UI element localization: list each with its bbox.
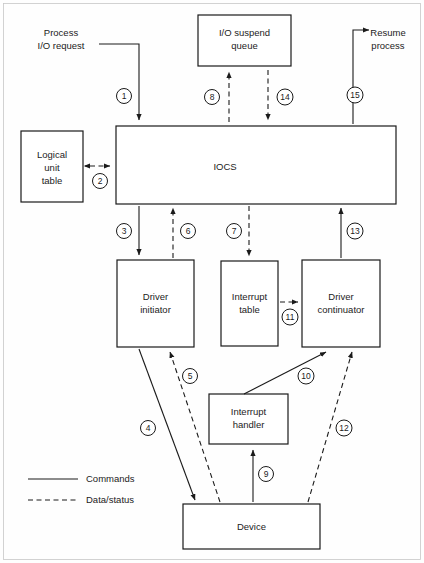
label-resume-process: Resume process: [370, 27, 405, 51]
svg-text:9: 9: [264, 469, 269, 479]
box-interrupt-table-label-2: table: [239, 304, 260, 315]
label-resume-process-line2: process: [371, 40, 405, 51]
legend-commands-label: Commands: [86, 473, 135, 484]
flow-number-3: 3: [117, 224, 132, 239]
legend-data-status-label: Data/status: [86, 494, 134, 505]
box-logical-unit-table: Logical unit table: [21, 131, 83, 202]
box-logical-unit-table-label-3: table: [42, 175, 63, 186]
svg-text:7: 7: [232, 226, 237, 236]
flow-number-5: 5: [183, 369, 198, 384]
legend: Commands Data/status: [28, 473, 135, 505]
flow-number-14: 14: [277, 89, 293, 105]
svg-text:2: 2: [98, 176, 103, 186]
box-driver-initiator-label-1: Driver: [143, 291, 168, 302]
svg-text:14: 14: [280, 92, 290, 102]
svg-text:10: 10: [301, 371, 311, 381]
label-process-io-request-line2: I/O request: [38, 40, 85, 51]
flow-number-11: 11: [282, 309, 298, 325]
box-driver-continuator: Driver continuator: [302, 260, 380, 347]
svg-text:5: 5: [188, 371, 193, 381]
box-device: Device: [183, 504, 320, 549]
svg-text:4: 4: [146, 423, 151, 433]
flow-number-13: 13: [347, 223, 363, 239]
flow-number-7: 7: [227, 224, 242, 239]
box-driver-initiator: Driver initiator: [117, 260, 194, 347]
box-io-suspend-queue-label-2: queue: [231, 40, 257, 51]
svg-text:8: 8: [210, 92, 215, 102]
label-process-io-request-line1: Process: [44, 27, 79, 38]
box-iocs-label: IOCS: [213, 161, 236, 172]
flow-number-2: 2: [93, 174, 108, 189]
flow-number-12: 12: [336, 420, 352, 436]
box-driver-continuator-label-2: continuator: [317, 304, 364, 315]
box-logical-unit-table-label-2: unit: [44, 162, 60, 173]
label-resume-process-line1: Resume: [370, 27, 405, 38]
box-io-suspend-queue-label-1: I/O suspend: [219, 27, 270, 38]
box-logical-unit-table-label-1: Logical: [37, 149, 67, 160]
box-driver-continuator-label-1: Driver: [328, 291, 353, 302]
box-interrupt-table: Interrupt table: [221, 261, 278, 346]
svg-text:12: 12: [339, 423, 349, 433]
svg-text:3: 3: [122, 226, 127, 236]
box-interrupt-table-label-1: Interrupt: [232, 291, 268, 302]
iocs-flow-diagram: I/O suspend queue Logical unit table IOC…: [0, 0, 424, 563]
box-interrupt-handler-label-2: handler: [233, 419, 265, 430]
svg-text:13: 13: [350, 226, 360, 236]
flow-number-6: 6: [181, 224, 196, 239]
flow-15-arrow: [353, 30, 369, 124]
box-io-suspend-queue: I/O suspend queue: [198, 15, 291, 66]
flow-number-10: 10: [298, 368, 314, 384]
flow-number-8: 8: [205, 90, 220, 105]
box-device-label: Device: [237, 521, 266, 532]
flow-number-4: 4: [141, 421, 156, 436]
svg-text:1: 1: [122, 91, 127, 101]
svg-text:6: 6: [186, 226, 191, 236]
flow-number-15: 15: [347, 87, 363, 103]
flow-number-1: 1: [117, 89, 132, 104]
flow-1-arrow: [99, 44, 139, 120]
box-interrupt-handler: Interrupt handler: [209, 394, 288, 444]
svg-text:11: 11: [286, 312, 295, 322]
flow-number-9: 9: [259, 467, 274, 482]
box-iocs: IOCS: [116, 126, 396, 204]
label-process-io-request: Process I/O request: [38, 27, 85, 51]
svg-text:15: 15: [350, 90, 360, 100]
box-driver-initiator-label-2: initiator: [140, 304, 171, 315]
box-interrupt-handler-label-1: Interrupt: [231, 406, 267, 417]
